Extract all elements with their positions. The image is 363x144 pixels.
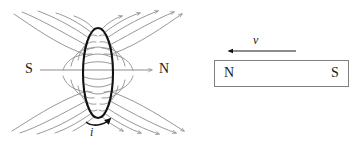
field-line xyxy=(87,47,109,50)
field-line xyxy=(84,62,112,64)
loop-north-pole-label: N xyxy=(159,62,169,76)
field-line xyxy=(84,77,112,79)
field-line xyxy=(87,91,109,94)
field-line xyxy=(14,14,84,54)
field-line xyxy=(107,11,158,38)
current-label: i xyxy=(90,126,93,138)
field-line xyxy=(104,54,133,70)
field-line xyxy=(112,14,182,54)
velocity-label: v xyxy=(253,34,258,46)
current-loop xyxy=(83,28,113,118)
magnet-south-pole-label: S xyxy=(331,66,339,80)
physics-figure: S N i v N S xyxy=(0,0,363,144)
field-line xyxy=(38,11,89,38)
magnet-north-pole-label: N xyxy=(224,66,234,80)
loop-south-pole-label: S xyxy=(25,62,33,76)
bar-magnet-body xyxy=(215,61,349,87)
field-line xyxy=(85,84,111,87)
figure-canvas xyxy=(0,0,363,144)
field-line xyxy=(63,54,92,70)
